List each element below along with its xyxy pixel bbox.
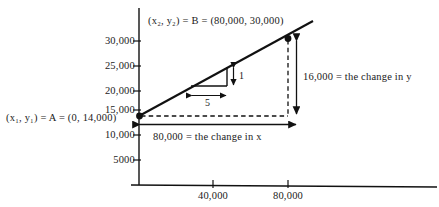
figure-canvas: 30,000 25,000 20,000 15,000 10,000 5000 … bbox=[0, 0, 439, 207]
x-axis bbox=[131, 185, 437, 187]
x-tick-label-40000: 40,000 bbox=[186, 191, 240, 202]
x-tick-label-80000: 80,000 bbox=[261, 191, 315, 202]
y-tick-label-5000: 5000 bbox=[113, 155, 135, 166]
trend-line bbox=[139, 21, 313, 116]
x-tick-marks bbox=[213, 180, 288, 188]
y-tick-label-10000: 10,000 bbox=[105, 130, 135, 141]
run-label: 5 bbox=[205, 98, 210, 108]
change-in-x-label: 80,000 = the change in x bbox=[153, 132, 262, 143]
y-tick-label-20000: 20,000 bbox=[105, 86, 135, 97]
rise-label: 1 bbox=[239, 71, 244, 81]
point-b-label: (x₂, y₂) = B = (80,000, 30,000) bbox=[148, 16, 284, 27]
y-tick-label-30000: 30,000 bbox=[105, 36, 135, 47]
change-in-y-label: 16,000 = the change in y bbox=[303, 72, 412, 83]
y-tick-marks bbox=[133, 41, 141, 160]
point-a-label: (x₁, y₁) = A = (0, 14,000) bbox=[6, 113, 116, 124]
y-tick-label-25000: 25,000 bbox=[105, 61, 135, 72]
graph-drawing bbox=[0, 0, 439, 207]
